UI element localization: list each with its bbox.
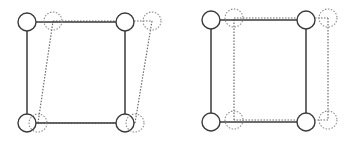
diagram-canvas (0, 0, 353, 141)
original-joint-node-icon (297, 113, 315, 131)
deformed-frame-member (135, 21, 152, 123)
original-joint-node-icon (116, 114, 134, 132)
left-frame-diagram (18, 12, 161, 132)
original-joint-node-icon (297, 11, 315, 29)
original-joint-node-icon (202, 113, 220, 131)
original-joint-node-icon (18, 114, 36, 132)
deformed-frame-member (38, 21, 53, 123)
original-joint-node-icon (202, 11, 220, 29)
right-frame-diagram (202, 9, 337, 131)
original-joint-node-icon (18, 13, 36, 31)
original-joint-node-icon (116, 13, 134, 31)
